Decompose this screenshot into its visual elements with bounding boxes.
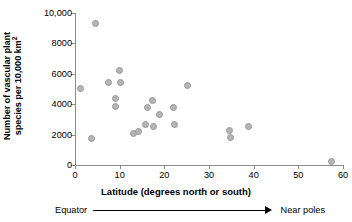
y-axis-title-line1: Number of vascular plant bbox=[2, 32, 12, 140]
data-point bbox=[245, 123, 252, 130]
data-point bbox=[156, 111, 163, 118]
data-point bbox=[135, 128, 142, 135]
x-axis-tick-mark bbox=[75, 165, 76, 169]
x-axis-tick-mark bbox=[120, 165, 121, 169]
right-arrow-icon bbox=[93, 206, 271, 215]
data-point bbox=[105, 79, 112, 86]
annotation-label-near-poles: Near poles bbox=[281, 205, 325, 215]
x-axis-tick-label: 20 bbox=[159, 170, 169, 180]
scatter-plot-figure: Number of vascular plant species per 10,… bbox=[0, 0, 352, 222]
equator-poles-annotation: Equator Near poles bbox=[55, 203, 325, 217]
data-point bbox=[116, 67, 123, 74]
data-point bbox=[227, 134, 234, 141]
data-point bbox=[170, 104, 177, 111]
data-point bbox=[171, 121, 178, 128]
x-axis-tick-label: 60 bbox=[338, 170, 348, 180]
data-point bbox=[112, 103, 119, 110]
y-axis-title: Number of vascular plant species per 10,… bbox=[0, 0, 26, 172]
data-point bbox=[149, 97, 156, 104]
x-axis-tick-label: 30 bbox=[204, 170, 214, 180]
x-axis-title: Latitude (degrees north or south) bbox=[0, 186, 352, 197]
x-axis-tick-label: 40 bbox=[249, 170, 259, 180]
data-point bbox=[77, 85, 84, 92]
y-axis-tick-label: 0 bbox=[67, 160, 72, 170]
x-axis-tick-mark bbox=[343, 165, 344, 169]
data-point bbox=[226, 127, 233, 134]
y-axis-tick-label: 10,000 bbox=[44, 8, 72, 18]
data-point bbox=[88, 135, 95, 142]
y-axis-tick-label: 4000 bbox=[52, 99, 72, 109]
plot-area: 0200040006000800010,0000102030405060 bbox=[75, 13, 343, 165]
x-axis-tick-mark bbox=[164, 165, 165, 169]
x-axis-tick-mark bbox=[298, 165, 299, 169]
data-point bbox=[184, 82, 191, 89]
x-axis-tick-mark bbox=[209, 165, 210, 169]
data-point bbox=[144, 104, 151, 111]
x-axis-tick-label: 50 bbox=[293, 170, 303, 180]
data-point bbox=[92, 20, 99, 27]
data-point bbox=[117, 79, 124, 86]
x-axis-tick-label: 0 bbox=[72, 170, 77, 180]
x-axis-tick-label: 10 bbox=[115, 170, 125, 180]
y-axis-tick-label: 8000 bbox=[52, 38, 72, 48]
x-axis-tick-mark bbox=[254, 165, 255, 169]
data-point bbox=[142, 121, 149, 128]
data-point bbox=[150, 123, 157, 130]
y-axis-tick-label: 6000 bbox=[52, 69, 72, 79]
y-axis-title-superscript: 2 bbox=[11, 37, 18, 41]
data-point bbox=[112, 95, 119, 102]
y-axis-tick-label: 2000 bbox=[52, 130, 72, 140]
annotation-label-equator: Equator bbox=[55, 205, 87, 215]
data-point bbox=[328, 158, 335, 165]
y-axis-title-line2: species per 10,000 km bbox=[13, 40, 23, 135]
